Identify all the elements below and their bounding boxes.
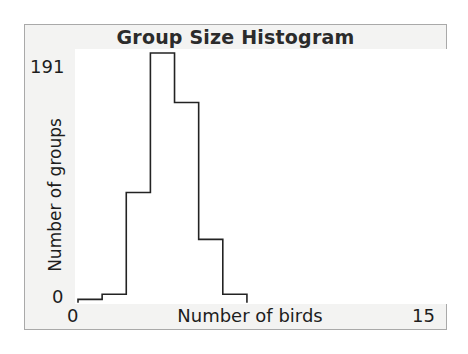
- histogram-figure: Group Size Histogram 191 0 Number of gro…: [0, 0, 468, 354]
- plot-canvas: [75, 49, 447, 304]
- page-title: Group Size Histogram: [24, 26, 447, 48]
- x-axis-tick-min: 0: [67, 305, 78, 326]
- y-axis-title: Number of groups: [45, 105, 65, 285]
- x-axis-title: Number of birds: [140, 305, 360, 326]
- figure-frame: [24, 24, 447, 330]
- y-axis-tick-min: 0: [52, 286, 63, 307]
- x-axis-tick-max: 15: [412, 305, 435, 326]
- y-axis-tick-max: 191: [30, 56, 64, 77]
